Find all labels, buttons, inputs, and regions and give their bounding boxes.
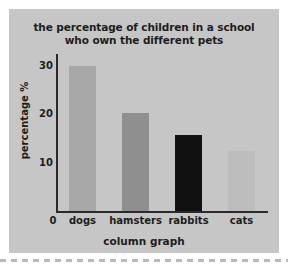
bar-dogs (69, 66, 96, 211)
bar-rabbits (175, 135, 202, 211)
chart-panel: the percentage of children in a school w… (9, 9, 279, 253)
y-axis-tick-30: 30 (23, 60, 53, 71)
bottom-dashed-rule (0, 259, 288, 262)
x-axis-label-dogs: dogs (56, 215, 109, 226)
x-axis-label-hamsters: hamsters (109, 215, 162, 226)
y-axis-title: percentage % (19, 73, 30, 169)
x-axis-title: column graph (9, 235, 279, 247)
chart-screenshot: the percentage of children in a school w… (0, 0, 288, 268)
x-axis-tick-labels: dogshamstersrabbitscats (56, 215, 268, 233)
x-axis-line (56, 211, 268, 213)
x-axis-label-cats: cats (215, 215, 268, 226)
bar-hamsters (122, 113, 149, 211)
x-axis-label-rabbits: rabbits (162, 215, 215, 226)
plot-area (56, 56, 268, 211)
bar-cats (228, 151, 255, 211)
